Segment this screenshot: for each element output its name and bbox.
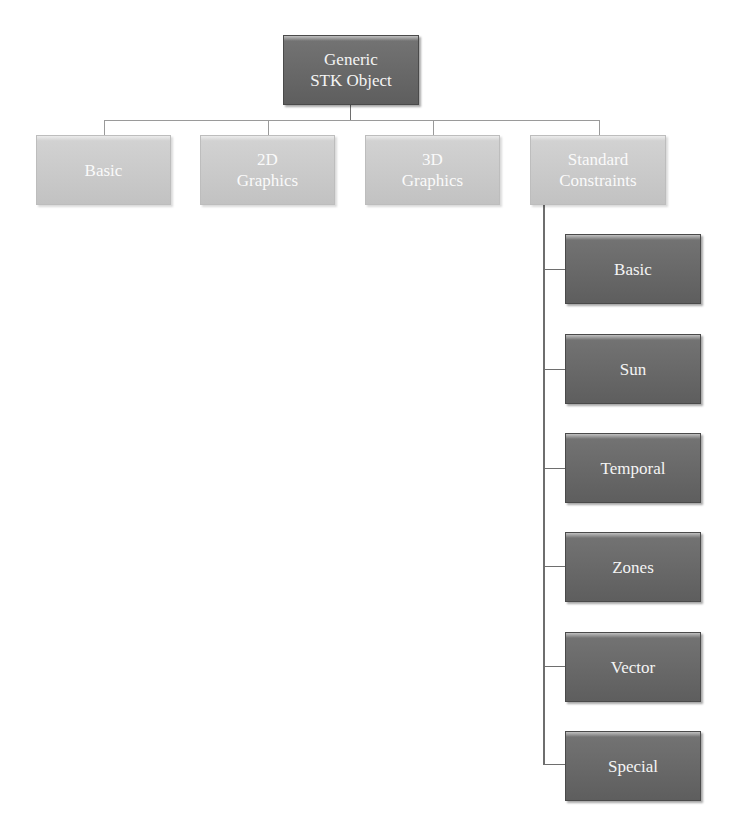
node-label-line1: 2D [237, 149, 298, 170]
connector-standard-constraints [599, 120, 600, 135]
node-2d-graphics: 2D Graphics [200, 135, 335, 205]
node-constraint-special: Special [565, 731, 701, 801]
node-label: Temporal [601, 458, 666, 479]
node-standard-constraints: Standard Constraints [530, 135, 666, 205]
connector-child-sun [543, 369, 565, 370]
node-label-line1: Standard [559, 149, 636, 170]
connector-child-temporal [543, 468, 565, 469]
connector-child-special [543, 764, 565, 765]
node-label-line2: Graphics [237, 170, 298, 191]
node-constraint-temporal: Temporal [565, 433, 701, 503]
node-3d-graphics: 3D Graphics [365, 135, 500, 205]
node-constraint-basic: Basic [565, 234, 701, 304]
connector-basic [104, 120, 105, 135]
connector-2d-graphics [268, 120, 269, 135]
connector-constraints-spine [543, 205, 545, 765]
node-constraint-zones: Zones [565, 532, 701, 602]
node-label: Zones [612, 557, 654, 578]
node-label-line2: STK Object [310, 70, 392, 91]
node-constraint-vector: Vector [565, 632, 701, 702]
connector-child-zones [543, 566, 565, 567]
node-generic-stk-object: Generic STK Object [283, 35, 419, 105]
node-label: Sun [620, 359, 646, 380]
connector-root-down [350, 105, 351, 121]
node-label-line2: Graphics [402, 170, 463, 191]
node-label: Basic [85, 160, 123, 181]
connector-child-basic [543, 269, 565, 270]
node-label: Basic [614, 259, 652, 280]
node-label-line1: Generic [310, 49, 392, 70]
node-basic: Basic [36, 135, 171, 205]
node-label: Special [608, 756, 658, 777]
connector-level1-horizontal [104, 120, 600, 121]
connector-child-vector [543, 666, 565, 667]
node-constraint-sun: Sun [565, 334, 701, 404]
node-label: Vector [611, 657, 655, 678]
node-label-line2: Constraints [559, 170, 636, 191]
connector-3d-graphics [433, 120, 434, 135]
node-label-line1: 3D [402, 149, 463, 170]
